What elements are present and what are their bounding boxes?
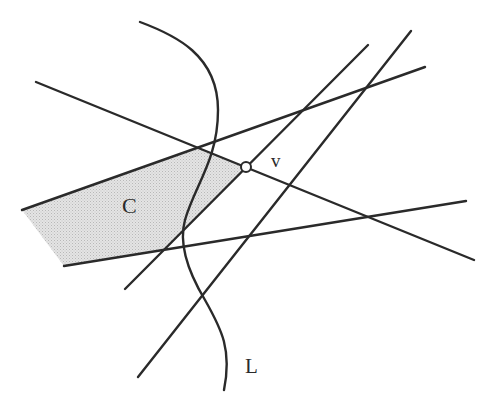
vertex-v-marker xyxy=(241,162,251,172)
diagram-canvas: v C L xyxy=(0,0,498,402)
region-label: C xyxy=(122,193,137,219)
vertex-label: v xyxy=(271,150,281,172)
curve-label: L xyxy=(245,354,258,379)
line-arrangement xyxy=(0,0,498,402)
